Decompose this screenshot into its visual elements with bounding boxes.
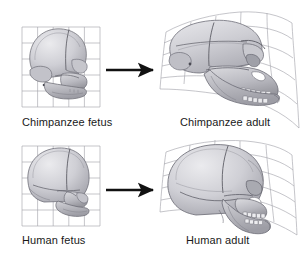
human-adult-skull-icon [168,145,271,234]
human-fetus-skull-icon [28,148,89,216]
caption-human-fetus: Human fetus [22,234,85,246]
skull-transformation-figure: Chimpanzee fetus Chimpanzee adult Human … [0,0,305,255]
panel-human-fetus [22,146,100,226]
panel-chimpanzee-adult [160,12,299,128]
panel-human-adult [160,140,297,235]
chimpanzee-adult-skull-icon [169,20,280,105]
chimpanzee-fetus-skull-icon [30,29,87,99]
caption-human-adult: Human adult [186,234,249,246]
panel-chimpanzee-fetus [22,27,100,107]
caption-chimpanzee-adult: Chimpanzee adult [180,116,270,128]
caption-chimpanzee-fetus: Chimpanzee fetus [22,116,112,128]
